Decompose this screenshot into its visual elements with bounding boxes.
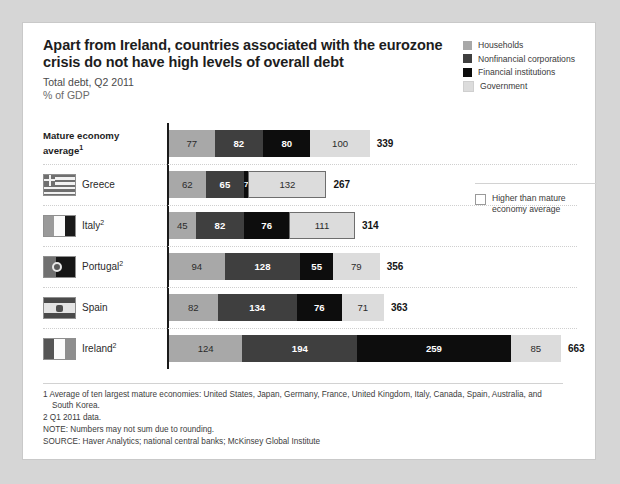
bar-total-value: 314 [355, 212, 379, 239]
bar-segment-nonfinancial-corporations: 194 [242, 335, 357, 362]
legend-item-label: Households [478, 40, 523, 50]
bar-total-value: 663 [561, 335, 585, 362]
bar-segment-households: 62 [169, 171, 206, 198]
chart-row-greece: Greece62657132267 [43, 164, 577, 205]
row-label: Italy2 [43, 205, 163, 246]
bar-segment-households: 45 [169, 212, 196, 239]
bar-segment-value: 76 [314, 302, 325, 313]
header: Apart from Ireland, countries associated… [43, 37, 443, 102]
legend-item-households: Households [463, 40, 575, 50]
bar-segment-value: 111 [315, 220, 330, 231]
stacked-bar: 778280100 [169, 130, 370, 157]
footnote-note: NOTE: Numbers may not sum due to roundin… [43, 425, 563, 436]
legend-item-label: Nonfinancial corporations [478, 54, 575, 64]
flag-icon-ireland [43, 338, 76, 360]
bar-segment-value: 128 [255, 261, 271, 272]
chart-subtitle: Total debt, Q2 2011 [43, 76, 443, 89]
bar-segment-value: 259 [426, 343, 442, 354]
row-label: Mature economyaverage1 [43, 123, 163, 164]
bar-segment-government: 71 [342, 294, 384, 321]
footnote-1: 1 Average of ten largest mature economie… [43, 390, 563, 411]
footnote-marker: 2 [113, 342, 117, 349]
chart-units: % of GDP [43, 89, 443, 102]
bar-segment-value: 124 [198, 343, 214, 354]
flag-icon-spain [43, 297, 76, 319]
footnote-2: 2 Q1 2011 data. [43, 413, 563, 424]
bar-segment-value: 77 [186, 138, 197, 149]
bar-segment-value: 194 [292, 343, 308, 354]
chart-frame: Apart from Ireland, countries associated… [22, 22, 596, 460]
bar-segment-value: 82 [215, 220, 226, 231]
page-title: Apart from Ireland, countries associated… [43, 37, 443, 71]
flag-icon-greece [43, 174, 76, 196]
row-label: Greece [43, 164, 163, 205]
chart-row-spain: Spain821347671363 [43, 287, 577, 328]
bar-segment-government: 100 [310, 130, 369, 157]
bar-total-value: 363 [384, 294, 408, 321]
bar-segment-value: 134 [249, 302, 265, 313]
bar-segment-government: 132 [248, 171, 326, 198]
legend-item-nonfinancial-corporations: Nonfinancial corporations [463, 54, 575, 64]
bar-segment-households: 77 [169, 130, 215, 157]
stacked-bar: 941285579 [169, 253, 380, 280]
stacked-bar: 458276111 [169, 212, 355, 239]
bar-segment-financial-institutions: 80 [263, 130, 310, 157]
legend-item-government: Government [463, 81, 575, 92]
bar-segment-nonfinancial-corporations: 65 [206, 171, 244, 198]
bar-segment-nonfinancial-corporations: 82 [196, 212, 245, 239]
bar-segment-financial-institutions: 76 [244, 212, 289, 239]
row-label-text: Spain [82, 302, 108, 313]
bar-segment-value: 79 [351, 261, 362, 272]
bar-total-value: 267 [326, 171, 350, 198]
bar-segment-value: 85 [530, 343, 541, 354]
legend-swatch-icon [463, 81, 474, 92]
bar-segment-financial-institutions: 55 [300, 253, 333, 280]
chart-row-ireland: Ireland212419425985663 [43, 328, 577, 369]
row-label: Spain [43, 287, 163, 328]
chart-row-mature-economy-average: Mature economyaverage1778280100339 [43, 123, 577, 164]
legend-swatch-icon [463, 54, 472, 63]
bar-total-value: 356 [380, 253, 404, 280]
bar-segment-value: 62 [182, 179, 193, 190]
footnote-source: SOURCE: Haver Analytics; national centra… [43, 437, 563, 448]
footnote-divider [43, 383, 563, 384]
bar-segment-households: 124 [169, 335, 242, 362]
flag-icon-portugal [43, 256, 76, 278]
legend-swatch-icon [463, 68, 472, 77]
footnote-marker: 1 [79, 144, 83, 151]
bar-segment-households: 82 [169, 294, 218, 321]
bar-segment-government: 79 [333, 253, 380, 280]
chart-row-italy: Italy2458276111314 [43, 205, 577, 246]
bar-segment-value: 71 [358, 302, 369, 313]
bar-segment-value: 45 [177, 220, 188, 231]
footnotes: 1 Average of ten largest mature economie… [43, 383, 563, 449]
bar-segment-value: 100 [332, 138, 348, 149]
bar-segment-value: 82 [188, 302, 199, 313]
bar-segment-value: 65 [220, 179, 231, 190]
bar-segment-government: 111 [289, 212, 355, 239]
bar-segment-value: 76 [261, 220, 272, 231]
stacked-bar: 62657132 [169, 171, 326, 198]
stacked-bar: 12419425985 [169, 335, 561, 362]
chart-rows: Mature economyaverage1778280100339Greece… [43, 123, 577, 369]
legend-item-financial-institutions: Financial institutions [463, 67, 575, 77]
row-label-text: Mature economyaverage1 [43, 130, 119, 156]
bar-segment-value: 80 [281, 138, 292, 149]
row-label-text: Italy2 [82, 219, 104, 231]
row-label-text: Greece [82, 179, 115, 190]
bar-segment-nonfinancial-corporations: 82 [215, 130, 264, 157]
legend: HouseholdsNonfinancial corporationsFinan… [463, 40, 575, 95]
footnote-marker: 2 [100, 219, 104, 226]
bar-segment-financial-institutions: 76 [297, 294, 342, 321]
bar-segment-financial-institutions: 259 [357, 335, 510, 362]
footnote-marker: 2 [119, 260, 123, 267]
bar-segment-value: 94 [191, 261, 202, 272]
legend-item-label: Government [480, 81, 527, 91]
bar-segment-nonfinancial-corporations: 128 [225, 253, 301, 280]
bar-segment-nonfinancial-corporations: 134 [218, 294, 297, 321]
flag-icon-italy [43, 215, 76, 237]
row-label-text: Ireland2 [82, 342, 116, 354]
legend-swatch-icon [463, 41, 472, 50]
bar-segment-government: 85 [511, 335, 561, 362]
stacked-bar: 821347671 [169, 294, 384, 321]
